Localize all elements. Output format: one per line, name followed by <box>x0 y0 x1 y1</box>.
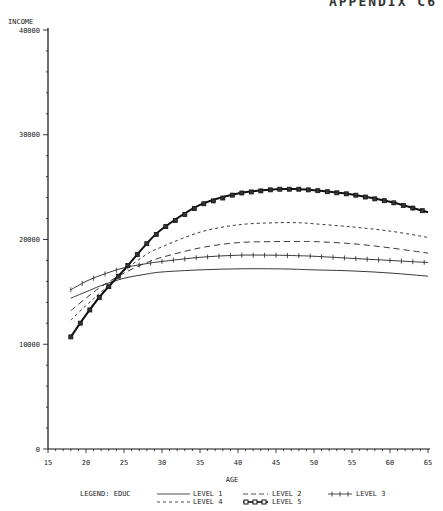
axes: 1520253035404550556065010000200003000040… <box>19 27 432 468</box>
x-tick-label: 45 <box>272 459 280 467</box>
series-lines <box>69 187 428 339</box>
legend: LEGEND: EDUC LEVEL 1 LEVEL 4 LEVEL 2 LEV… <box>80 490 386 506</box>
x-tick-label: 50 <box>310 459 318 467</box>
x-tick-label: 35 <box>196 459 204 467</box>
series-line-level-2 <box>71 241 428 310</box>
y-tick-label: 20000 <box>19 236 40 244</box>
legend-item-level-5: LEVEL 5 <box>243 498 302 506</box>
legend-item-level-2: LEVEL 2 <box>243 490 302 498</box>
y-tick-label: 30000 <box>19 131 40 139</box>
legend-item-level-3: LEVEL 3 <box>328 490 386 498</box>
x-tick-label: 15 <box>44 459 52 467</box>
x-tick-label: 30 <box>158 459 166 467</box>
x-axis-title: AGE <box>226 476 239 484</box>
income-by-age-chart: 1520253035404550556065010000200003000040… <box>0 0 443 511</box>
legend-label-level-3: LEVEL 3 <box>356 490 386 498</box>
y-tick-label: 0 <box>36 446 40 454</box>
legend-label-level-5: LEVEL 5 <box>272 498 302 506</box>
legend-title: LEGEND: EDUC <box>80 490 131 498</box>
legend-label-level-4: LEVEL 4 <box>193 498 223 506</box>
series-line-level-5 <box>71 189 428 337</box>
x-tick-label: 25 <box>120 459 128 467</box>
x-tick-label: 40 <box>234 459 242 467</box>
x-tick-label: 20 <box>82 459 90 467</box>
y-tick-label: 40000 <box>19 27 40 35</box>
x-tick-label: 55 <box>348 459 356 467</box>
legend-label-level-2: LEVEL 2 <box>272 490 302 498</box>
legend-label-level-1: LEVEL 1 <box>193 490 223 498</box>
x-tick-label: 65 <box>424 459 432 467</box>
legend-item-level-1: LEVEL 1 <box>157 490 223 498</box>
legend-item-level-4: LEVEL 4 <box>157 498 223 506</box>
y-tick-label: 10000 <box>19 341 40 349</box>
y-axis-title: INCOME <box>8 18 33 26</box>
series-line-level-4 <box>71 223 428 321</box>
x-tick-label: 60 <box>386 459 394 467</box>
